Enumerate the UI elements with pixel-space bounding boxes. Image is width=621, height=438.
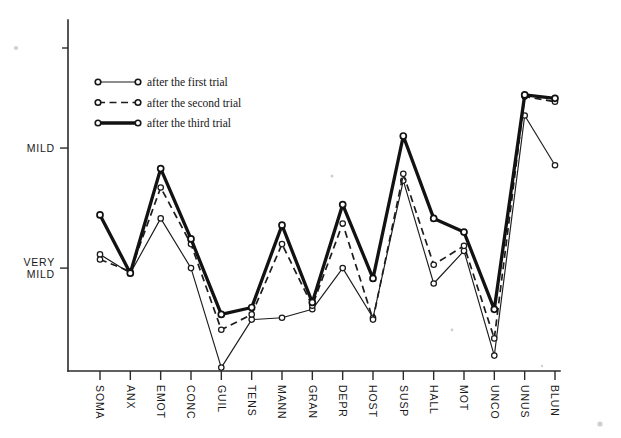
data-point <box>188 265 193 270</box>
data-point <box>522 92 528 98</box>
data-point <box>461 243 466 248</box>
data-point <box>249 305 255 311</box>
legend-marker <box>135 79 141 85</box>
legend-marker <box>95 79 101 85</box>
x-tick-label-group: SOMAANXEMOTCONCGUILTENSMANNGRANDEPRHOSTS… <box>94 385 561 420</box>
data-point <box>492 336 497 341</box>
series-1-line <box>100 116 555 368</box>
chart-figure: MILDVERYMILD SOMAANXEMOTCONCGUILTENSMANN… <box>0 0 621 438</box>
data-point <box>219 327 224 332</box>
x-tick-label-mann: MANN <box>276 385 288 420</box>
data-point <box>219 365 224 370</box>
data-point <box>340 221 345 226</box>
x-tick-label-emot: EMOT <box>155 385 167 419</box>
legend-label: after the first trial <box>147 76 228 88</box>
data-point <box>127 270 133 276</box>
y-tick-label-group: MILDVERYMILD <box>23 142 55 280</box>
x-tick-label-unus: UNUS <box>519 385 531 418</box>
y-tick-label-1: VERYMILD <box>23 256 55 280</box>
data-point <box>552 163 557 168</box>
data-point <box>249 312 254 317</box>
data-point <box>97 212 103 218</box>
data-point <box>461 229 467 235</box>
x-tick-label-mot: MOT <box>458 385 470 411</box>
x-tick-label-hall: HALL <box>428 385 440 415</box>
legend-label: after the second trial <box>147 97 241 109</box>
legend-marker <box>95 120 101 126</box>
x-tick-label-susp: SUSP <box>398 385 410 417</box>
x-tick-marks <box>100 371 555 380</box>
series-1 <box>97 113 557 371</box>
x-tick-label-guil: GUIL <box>216 385 228 413</box>
data-point <box>279 241 284 246</box>
data-point <box>279 315 284 320</box>
x-tick-label-soma: SOMA <box>94 385 106 420</box>
chart-legend: after the first trialafter the second tr… <box>95 76 241 129</box>
data-point <box>279 222 285 228</box>
legend-label: after the third trial <box>147 117 231 129</box>
data-point <box>492 353 497 358</box>
x-tick-label-unco: UNCO <box>489 385 501 420</box>
series-2-line <box>100 97 555 339</box>
data-point <box>400 133 406 139</box>
data-point <box>158 185 163 190</box>
legend-entry-2: after the second trial <box>95 97 241 109</box>
data-point <box>340 202 346 208</box>
legend-entry-1: after the first trial <box>95 76 228 88</box>
x-tick-label-gran: GRAN <box>307 385 319 419</box>
data-point <box>370 317 375 322</box>
x-tick-label-blun: BLUN <box>549 385 561 417</box>
legend-entry-3: after the third trial <box>95 117 231 129</box>
data-point <box>401 171 406 176</box>
legend-marker <box>135 100 141 106</box>
data-point <box>158 216 163 221</box>
data-point <box>552 95 558 101</box>
y-tick-marks <box>60 48 68 268</box>
data-point <box>431 215 437 221</box>
series-layer <box>97 92 558 370</box>
line-chart-svg: MILDVERYMILD SOMAANXEMOTCONCGUILTENSMANN… <box>0 0 621 438</box>
series-2 <box>97 94 557 341</box>
x-tick-label-tens: TENS <box>246 385 258 417</box>
x-tick-label-conc: CONC <box>185 385 197 420</box>
legend-marker <box>95 100 101 106</box>
x-tick-label-host: HOST <box>367 385 379 418</box>
x-tick-label-depr: DEPR <box>337 385 349 418</box>
data-point <box>188 236 194 242</box>
data-point <box>370 275 376 281</box>
y-tick-label-0: MILD <box>27 142 55 154</box>
data-point <box>97 257 102 262</box>
legend-marker <box>135 120 141 126</box>
data-point <box>340 265 345 270</box>
axis-group <box>68 20 560 371</box>
data-point <box>431 262 436 267</box>
data-point <box>218 311 224 317</box>
x-tick-label-anx: ANX <box>125 385 137 409</box>
data-point <box>431 281 436 286</box>
data-point <box>158 166 164 172</box>
data-point <box>491 306 497 312</box>
data-point <box>309 299 315 305</box>
